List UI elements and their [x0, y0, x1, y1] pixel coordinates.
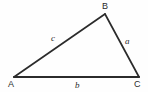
- side-c-line: [14, 14, 105, 77]
- side-label-a: a: [125, 37, 130, 46]
- vertex-label-b: B: [102, 2, 108, 11]
- side-label-b: b: [75, 81, 80, 90]
- vertex-label-a: A: [8, 80, 14, 89]
- side-a-line: [105, 14, 139, 77]
- vertex-label-c: C: [134, 80, 141, 89]
- triangle-diagram: A B C a b c: [0, 0, 148, 92]
- triangle-shape: [0, 0, 148, 92]
- side-label-c: c: [51, 34, 55, 43]
